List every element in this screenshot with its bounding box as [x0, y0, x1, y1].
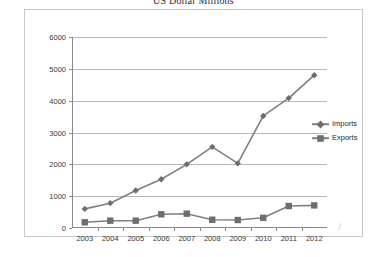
- x-tick-label: 2011: [281, 234, 297, 243]
- data-point-square[interactable]: [133, 217, 139, 223]
- x-tick-mark: [200, 228, 201, 231]
- data-point-square[interactable]: [235, 217, 241, 223]
- x-tick-mark: [302, 228, 303, 231]
- x-tick-mark: [98, 228, 99, 231]
- data-point-diamond[interactable]: [107, 200, 113, 206]
- square-marker-icon: [312, 133, 329, 143]
- y-tick-label: 0: [62, 224, 66, 233]
- series-line-imports: [85, 75, 315, 209]
- stray-pen-mark: /: [338, 222, 342, 233]
- y-tick-label: 3000: [49, 128, 66, 137]
- series-line-exports: [85, 205, 315, 222]
- x-tick-label: 2003: [76, 234, 93, 243]
- data-point-diamond[interactable]: [133, 187, 139, 193]
- x-tick-mark: [123, 228, 124, 231]
- data-point-square[interactable]: [260, 215, 266, 221]
- legend-item-imports[interactable]: Imports: [312, 117, 376, 131]
- y-tick-label: 4000: [49, 96, 66, 105]
- y-tick-label: 5000: [49, 64, 66, 73]
- y-tick-label: 6000: [49, 33, 66, 42]
- x-tick-label: 2004: [102, 234, 119, 243]
- x-tick-mark: [149, 228, 150, 231]
- x-tick-mark: [276, 228, 277, 231]
- x-tick-label: 2009: [229, 234, 246, 243]
- data-point-square[interactable]: [107, 217, 113, 223]
- x-tick-label: 2008: [204, 234, 221, 243]
- x-tick-label: 2010: [255, 234, 272, 243]
- legend-label-exports: Exports: [332, 134, 357, 142]
- plot-area: 0100020003000400050006000 20032004200520…: [72, 37, 327, 228]
- diamond-marker-icon: [312, 119, 329, 129]
- x-tick-mark: [174, 228, 175, 231]
- series-layer: [72, 37, 327, 228]
- y-tick-mark: [69, 228, 72, 229]
- x-tick-label: 2012: [306, 234, 323, 243]
- x-tick-mark: [225, 228, 226, 231]
- data-point-square[interactable]: [286, 203, 292, 209]
- data-point-diamond[interactable]: [82, 206, 88, 212]
- chart-figure: US Dollar Millions 010002000300040005000…: [0, 0, 387, 257]
- legend-label-imports: Imports: [332, 120, 357, 128]
- data-point-square[interactable]: [158, 211, 164, 217]
- legend: Imports Exports: [312, 117, 376, 145]
- data-point-square[interactable]: [82, 219, 88, 225]
- x-tick-mark: [251, 228, 252, 231]
- page-title: US Dollar Millions: [0, 0, 387, 6]
- data-point-square[interactable]: [311, 202, 317, 208]
- data-point-square[interactable]: [184, 210, 190, 216]
- x-tick-label: 2006: [153, 234, 170, 243]
- data-point-diamond[interactable]: [158, 176, 164, 182]
- data-point-square[interactable]: [209, 217, 215, 223]
- legend-item-exports[interactable]: Exports: [312, 131, 376, 145]
- y-tick-label: 2000: [49, 160, 66, 169]
- x-tick-label: 2005: [127, 234, 144, 243]
- y-tick-label: 1000: [49, 192, 66, 201]
- x-tick-label: 2007: [178, 234, 195, 243]
